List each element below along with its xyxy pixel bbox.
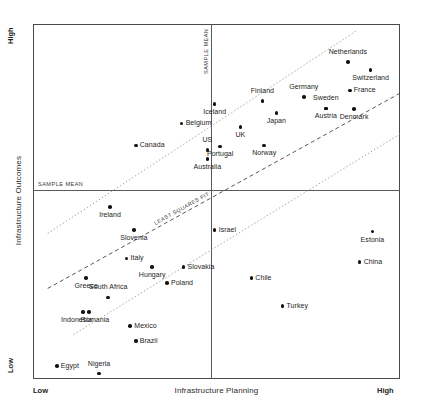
data-point-label: Portugal	[207, 150, 233, 157]
data-point-label: Belgium	[186, 119, 212, 126]
data-point-label: Germany	[289, 83, 318, 90]
data-point-label: Brazil	[140, 337, 158, 344]
data-point-label: Estonia	[361, 236, 385, 243]
data-point	[262, 144, 266, 148]
data-point-label: Hungary	[139, 271, 166, 278]
data-point	[358, 260, 362, 264]
data-point	[346, 60, 350, 64]
data-point	[106, 296, 110, 300]
data-point-label: Nigeria	[88, 360, 111, 367]
data-point-label: Slovakia	[187, 263, 214, 270]
data-point	[128, 324, 132, 328]
data-point	[324, 107, 328, 111]
data-point-label: Mexico	[134, 322, 156, 329]
data-point-label: UK	[235, 131, 245, 138]
data-point-label: Iceland	[203, 108, 226, 115]
data-point	[206, 157, 210, 161]
data-point-label: South Africa	[89, 283, 127, 290]
data-point-label: Netherlands	[329, 48, 367, 55]
data-point-label: France	[354, 86, 376, 93]
data-point-label: Australia	[193, 163, 221, 170]
data-point	[250, 276, 254, 280]
data-point	[134, 339, 138, 343]
data-point-label: Chile	[255, 274, 271, 281]
data-point-label: Finland	[251, 87, 274, 94]
fit-lines	[33, 24, 400, 379]
data-point-label: Italy	[131, 254, 144, 261]
data-point-label: Denmark	[340, 113, 369, 120]
y-axis-high-label: High	[6, 27, 15, 44]
data-point	[134, 144, 138, 148]
scatter-chart: SAMPLE MEAN SAMPLE MEAN LEAST SQUARES FI…	[0, 0, 421, 415]
data-point-label: Turkey	[287, 302, 308, 309]
x-axis-high-label: High	[377, 386, 394, 395]
data-point-label: Poland	[171, 279, 193, 286]
x-axis-low-label: Low	[33, 386, 48, 395]
data-point-label: Austria	[315, 112, 337, 119]
y-axis-title: Infrastructure Outcomes	[14, 131, 23, 271]
data-point	[165, 281, 169, 285]
data-point-label: Japan	[267, 117, 286, 124]
data-point	[84, 276, 88, 280]
data-point	[261, 99, 265, 103]
data-point	[239, 125, 243, 129]
data-point	[348, 89, 352, 93]
data-point-label: Ireland	[99, 211, 121, 218]
data-point-label: Norway	[252, 149, 276, 156]
data-point	[302, 95, 306, 99]
data-point	[108, 205, 112, 209]
data-point	[87, 310, 91, 314]
data-point	[352, 107, 356, 111]
data-point-label: Canada	[140, 141, 165, 148]
data-point-label: US	[202, 136, 212, 143]
data-point-label: Romania	[81, 316, 109, 323]
data-point-label: Slovenia	[120, 234, 147, 241]
y-axis-low-label: Low	[6, 358, 15, 373]
data-point-label: Israel	[219, 226, 236, 233]
data-point	[132, 228, 136, 232]
data-point	[55, 364, 59, 368]
x-axis-title: Infrastructure Planning	[33, 386, 400, 395]
data-point-label: China	[364, 258, 383, 265]
data-point-label: Switzerland	[352, 74, 389, 81]
data-point	[150, 265, 154, 269]
data-point-label: Egypt	[61, 362, 79, 369]
data-point	[369, 68, 373, 72]
data-point	[275, 111, 279, 115]
data-point-label: Sweden	[313, 94, 339, 101]
